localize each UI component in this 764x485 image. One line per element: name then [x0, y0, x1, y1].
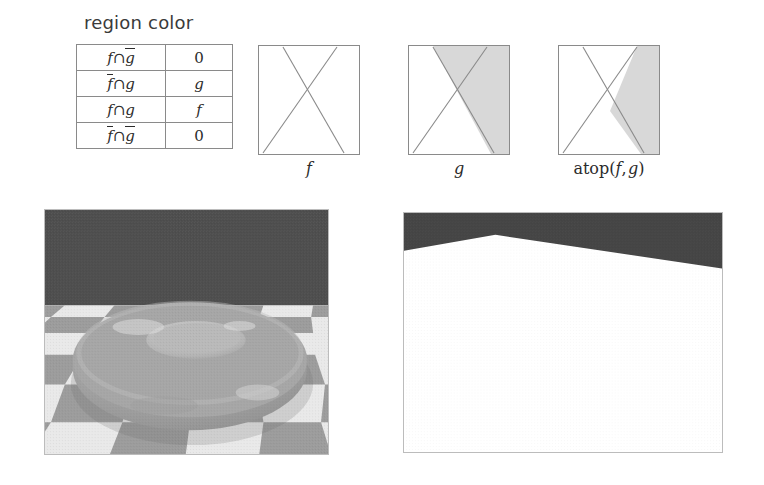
term-g: g	[125, 75, 135, 93]
diagram-f: f	[258, 45, 360, 155]
value-text: 0	[194, 49, 204, 67]
cap-symbol: ∩	[113, 49, 126, 67]
table-row: f∩g g	[77, 71, 233, 97]
diagram-g-label-text: g	[454, 159, 464, 178]
region-color-table: f∩g 0 f∩g g f∩g f	[76, 44, 233, 149]
diagram-g: g	[408, 45, 510, 155]
diagram-f-label: f	[258, 159, 360, 178]
top-figure: region color f∩g 0 f∩g g	[0, 0, 764, 195]
term-g-bar: g	[125, 126, 135, 145]
term-g: g	[125, 101, 135, 119]
value-text: g	[194, 75, 204, 93]
matte-render-image	[403, 212, 723, 453]
value-text: 0	[194, 127, 204, 145]
table-cell-region: f∩g	[77, 97, 166, 123]
table-cell-color: g	[166, 71, 233, 97]
term-f-bar: f	[107, 74, 113, 93]
cap-symbol: ∩	[113, 75, 126, 93]
cap-symbol: ∩	[113, 127, 126, 145]
table-cell-region: f∩g	[77, 71, 166, 97]
table-cell-color: 0	[166, 45, 233, 71]
atop-arg2: g	[628, 159, 638, 178]
table-row: f∩g f	[77, 97, 233, 123]
diagram-atop-label: atop(f, g)	[558, 159, 660, 178]
atop-comma: ,	[621, 159, 626, 178]
term-f-bar: f	[107, 126, 113, 145]
diagram-g-label: g	[408, 159, 510, 178]
cap-symbol: ∩	[113, 101, 126, 119]
atop-suffix: )	[638, 159, 644, 178]
table-row: f∩g 0	[77, 123, 233, 149]
table-cell-color: f	[166, 97, 233, 123]
diagram-atop: atop(f, g)	[558, 45, 660, 155]
diagram-f-label-text: f	[306, 159, 312, 178]
atop-prefix: atop(	[573, 159, 615, 178]
table-row: f∩g 0	[77, 45, 233, 71]
value-text: f	[196, 101, 202, 119]
table-cell-color: 0	[166, 123, 233, 149]
table-caption: region color	[84, 12, 193, 33]
torus-render-image	[44, 209, 329, 455]
table-cell-region: f∩g	[77, 123, 166, 149]
term-g-bar: g	[125, 48, 135, 67]
table-cell-region: f∩g	[77, 45, 166, 71]
